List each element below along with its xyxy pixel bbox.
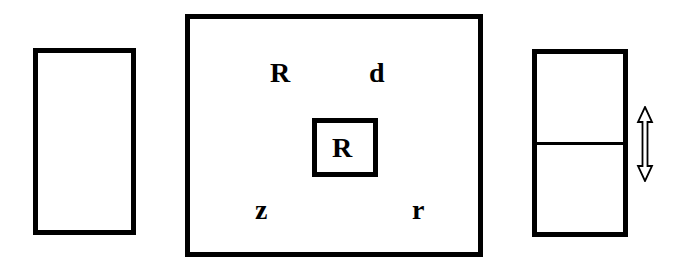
label-top-right: d: [369, 59, 385, 87]
double-headed-vertical-arrow-icon: [636, 106, 654, 182]
inner-label: R: [332, 134, 352, 162]
label-top-left: R: [270, 59, 290, 87]
label-bottom-left: z: [255, 196, 267, 224]
horizontal-divider: [537, 142, 623, 145]
left-rectangle: [33, 48, 136, 235]
label-bottom-right: r: [412, 196, 424, 224]
